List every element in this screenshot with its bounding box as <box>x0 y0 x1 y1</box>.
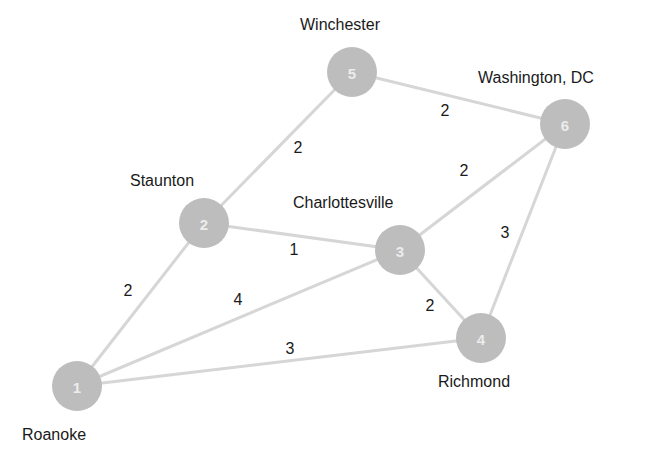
node-richmond: 4 <box>456 313 506 363</box>
node-roanoke: 1 <box>52 361 102 411</box>
edge-weight-label: 4 <box>234 291 243 308</box>
node-washington-dc: 6 <box>540 99 590 149</box>
node-winchester: 5 <box>327 47 377 97</box>
city-label: Richmond <box>438 373 510 390</box>
city-label: Winchester <box>300 16 381 33</box>
edge-weight-label: 2 <box>124 282 133 299</box>
edge-weight-label: 1 <box>290 241 299 258</box>
edge-staunton-charlottesville <box>204 223 400 250</box>
edge-weight-label: 2 <box>294 139 303 156</box>
city-label: Washington, DC <box>478 69 594 86</box>
node-number: 5 <box>348 65 356 82</box>
node-number: 2 <box>200 216 208 233</box>
node-number: 6 <box>561 117 569 134</box>
edge-weight-label: 2 <box>441 102 450 119</box>
network-graph: 243122232 123456 RoanokeStauntonCharlott… <box>0 0 657 453</box>
edge-roanoke-staunton <box>77 223 204 386</box>
city-label: Staunton <box>130 172 194 189</box>
node-number: 3 <box>396 243 404 260</box>
edge-weight-label: 2 <box>460 162 469 179</box>
edge-weight-label: 3 <box>501 224 510 241</box>
city-label: Roanoke <box>22 426 86 443</box>
node-number: 1 <box>73 379 81 396</box>
edge-weight-label: 2 <box>426 297 435 314</box>
city-label: Charlottesville <box>293 194 394 211</box>
node-charlottesville: 3 <box>375 225 425 275</box>
edge-weight-label: 3 <box>286 340 295 357</box>
node-number: 4 <box>477 331 486 348</box>
node-staunton: 2 <box>179 198 229 248</box>
